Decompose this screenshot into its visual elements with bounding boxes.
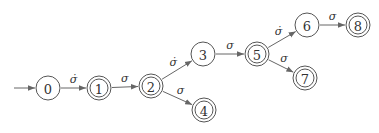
accepting-state-2: 2	[139, 74, 163, 98]
state-label: 0	[44, 82, 52, 97]
transition-2-4: σ	[163, 84, 192, 105]
transition-0-1: σ̇	[61, 73, 86, 88]
transition-label: σ	[177, 84, 185, 97]
transition-label: σ̇	[275, 25, 283, 38]
transition-label: σ̇	[70, 73, 78, 86]
state-label: 4	[200, 104, 208, 119]
transition-6-8: σ	[320, 10, 345, 25]
accepting-state-1: 1	[87, 76, 111, 100]
state-label: 5	[253, 48, 261, 63]
accepting-state-5: 5	[245, 42, 269, 66]
transition-label: σ̇	[170, 56, 178, 69]
accepting-state-7: 7	[293, 66, 317, 90]
state-3: 3	[191, 42, 215, 66]
state-label: 8	[354, 19, 362, 34]
transition-label: σ	[280, 52, 288, 65]
transition-arrow	[112, 86, 138, 87]
state-6: 6	[295, 13, 319, 37]
state-0: 0	[36, 76, 60, 100]
transition-5-7: σ	[269, 52, 294, 72]
accepting-state-4: 4	[192, 98, 216, 122]
transition-1-2: σ	[112, 72, 138, 87]
transition-3-5: σ	[216, 39, 244, 54]
state-label: 7	[301, 72, 309, 87]
transition-label: σ	[329, 10, 337, 23]
states: 012345678	[36, 13, 370, 122]
state-label: 1	[95, 82, 103, 97]
state-label: 3	[199, 48, 207, 63]
transition-2-3: σ̇	[162, 56, 192, 79]
state-label: 2	[147, 80, 155, 95]
accepting-state-8: 8	[346, 13, 370, 37]
automaton-diagram: σ̇σσ̇σσσ̇σσ 012345678	[0, 0, 379, 133]
transition-label: σ	[226, 39, 234, 52]
transition-label: σ	[121, 72, 129, 85]
transition-5-6: σ̇	[268, 25, 296, 47]
state-label: 6	[303, 19, 311, 34]
